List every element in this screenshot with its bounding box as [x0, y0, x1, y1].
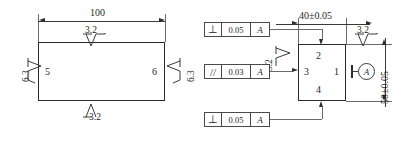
dimension-label-height-50: 50±0.05	[380, 71, 390, 104]
datum-leader-line	[351, 71, 358, 72]
surface-finish-symbol-surface-3-icon	[274, 44, 294, 68]
dimension-arrow-left	[39, 18, 45, 22]
surface-finish-label-right: 6.3	[187, 70, 197, 82]
surface-label-3: 3	[304, 67, 309, 77]
feature-control-frame-top[interactable]: ⊥ 0.05 A	[204, 22, 270, 37]
surface-label-5: 5	[45, 67, 50, 77]
extension-line-40-left	[298, 18, 299, 44]
leader-line-fcf-top-v	[322, 29, 323, 39]
surface-finish-label-bottom: 3.2	[89, 113, 101, 123]
leader-line-fcf-bottom-v	[322, 107, 323, 119]
surface-finish-symbol-top-icon	[83, 33, 109, 49]
surface-label-6: 6	[152, 67, 157, 77]
leader-line-fcf-bottom-h	[270, 119, 322, 120]
extension-line-right	[165, 14, 166, 42]
extension-line-40-right	[346, 18, 347, 44]
gdt-tolerance-value: 0.03	[222, 65, 251, 78]
gdt-symbol-perpendicularity-icon: ⊥	[205, 23, 222, 36]
dimension-label-width-40: 40±0.05	[299, 11, 332, 21]
surface-label-2: 2	[316, 51, 321, 61]
leader-arrow-fcf-bottom	[319, 101, 323, 107]
surface-finish-symbol-right-icon	[164, 58, 182, 84]
leader-line-fcf-middle	[270, 71, 292, 72]
datum-symbol-a: A	[358, 63, 375, 80]
surface-finish-symbol-left-icon	[27, 58, 45, 84]
dimension-label-width-100: 100	[90, 8, 105, 18]
surface-finish-symbol-top-right-icon	[355, 33, 381, 49]
leader-arrow-fcf-middle	[292, 68, 298, 72]
dimension-line-width-40	[276, 24, 370, 25]
dimension-arrow-right	[159, 18, 165, 22]
dimension-arrow-50-top	[382, 39, 386, 45]
gdt-symbol-perpendicularity-icon: ⊥	[205, 113, 222, 126]
leader-line-fcf-top-h	[270, 29, 322, 30]
surface-label-4: 4	[316, 85, 321, 95]
engineering-drawing-canvas: 100 3.2 3.2 6.3 6.3 5 6 40±0.05 50±0.05 …	[0, 0, 406, 146]
leader-arrow-fcf-top	[319, 39, 323, 45]
feature-control-frame-middle[interactable]: // 0.03 A	[204, 64, 270, 79]
dimension-line-width-100	[38, 21, 165, 22]
gdt-datum-reference: A	[251, 23, 269, 36]
surface-label-1: 1	[334, 67, 339, 77]
dimension-arrow-40-left	[292, 21, 298, 25]
datum-symbol-label: A	[364, 67, 370, 77]
gdt-tolerance-value: 0.05	[222, 113, 251, 126]
gdt-symbol-parallelism-icon: //	[205, 65, 222, 78]
feature-control-frame-bottom[interactable]: ⊥ 0.05 A	[204, 112, 270, 127]
gdt-datum-reference: A	[251, 65, 269, 78]
gdt-tolerance-value: 0.05	[222, 23, 251, 36]
gdt-datum-reference: A	[251, 113, 269, 126]
front-view-outline	[38, 42, 165, 101]
